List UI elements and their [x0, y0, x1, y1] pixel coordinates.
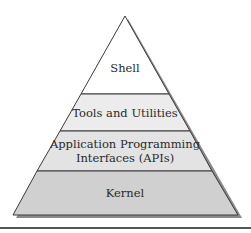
label-kernel: Kernel: [106, 186, 145, 200]
label-shell: Shell: [110, 61, 140, 75]
label-apis-line1: Application Programming: [49, 137, 201, 151]
os-layers-pyramid: Shell Tools and Utilities Application Pr…: [0, 0, 251, 233]
layer-shell: [81, 16, 169, 94]
label-tools: Tools and Utilities: [72, 106, 178, 120]
label-apis-line2: Interfaces (APIs): [76, 151, 174, 165]
divider-rule: [0, 227, 251, 229]
